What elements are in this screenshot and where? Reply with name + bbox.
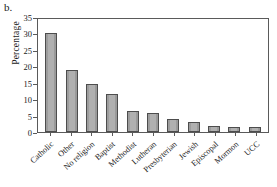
y-tick-label: 15 <box>24 79 33 88</box>
x-label-cell: UCC <box>245 137 266 187</box>
y-tick-label: 20 <box>24 63 33 72</box>
bar-cell <box>102 19 122 132</box>
bar-cell <box>122 19 142 132</box>
x-tick-mark <box>91 133 92 136</box>
x-tick-mark <box>194 133 195 136</box>
y-tick-label: 0 <box>28 129 32 138</box>
bar-cell <box>245 19 265 132</box>
y-axis-ticks: 35302520151050 <box>0 18 37 133</box>
bar[interactable] <box>106 94 118 132</box>
y-tick-label: 35 <box>24 14 33 23</box>
bar-cell <box>204 19 224 132</box>
plot-area <box>37 18 269 133</box>
x-label-cell: Catholic <box>40 137 61 187</box>
x-tick-mark <box>50 133 51 136</box>
bar-cell <box>41 19 61 132</box>
x-label-cell: Mormon <box>225 137 246 187</box>
x-tick-mark <box>132 133 133 136</box>
x-tick-mark <box>174 133 175 136</box>
bar-cell <box>184 19 204 132</box>
x-tick-mark <box>256 133 257 136</box>
bar[interactable] <box>167 119 179 132</box>
bar-cell <box>61 19 81 132</box>
y-tick-label: 30 <box>24 30 33 39</box>
x-tick-mark <box>215 133 216 136</box>
bar[interactable] <box>45 33 57 132</box>
bar-cell <box>143 19 163 132</box>
x-tick-label: Catholic <box>29 140 56 166</box>
bar-cell <box>163 19 183 132</box>
bar-cell <box>224 19 244 132</box>
x-tick-mark <box>235 133 236 136</box>
bar[interactable] <box>147 113 159 132</box>
bar[interactable] <box>249 127 261 132</box>
bar[interactable] <box>228 127 240 132</box>
bar[interactable] <box>86 84 98 132</box>
x-tick-mark <box>153 133 154 136</box>
bar[interactable] <box>208 126 220 132</box>
x-tick-mark <box>71 133 72 136</box>
y-tick-label: 10 <box>24 96 33 105</box>
bar-cell <box>82 19 102 132</box>
y-tick-label: 5 <box>28 112 32 121</box>
y-tick-label: 25 <box>24 47 33 56</box>
x-axis-labels: CatholicOtherNo religionBaptistMethodist… <box>37 137 269 187</box>
x-label-cell: Presbyterian <box>163 137 184 187</box>
bar[interactable] <box>188 122 200 132</box>
figure-panel-b: b. Percentage 35302520151050 CatholicOth… <box>0 0 277 187</box>
bar[interactable] <box>66 70 78 132</box>
x-tick-mark <box>112 133 113 136</box>
bar[interactable] <box>127 111 139 132</box>
x-tick-label: UCC <box>242 140 261 158</box>
bar-series <box>38 19 268 132</box>
